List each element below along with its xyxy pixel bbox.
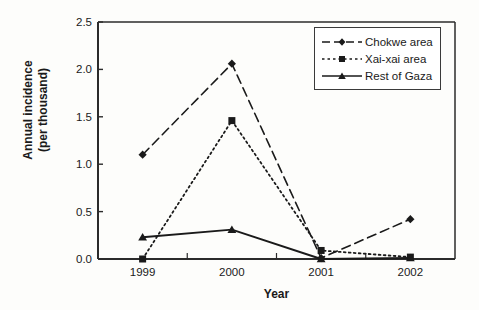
legend-key-dotted-square-icon [321, 52, 363, 66]
series-line-1 [143, 121, 411, 259]
x-axis-title: Year [98, 287, 455, 301]
legend-label-chokwe-area: Chokwe area [363, 36, 433, 48]
x-axis-tick-label: 2002 [398, 266, 424, 278]
data-point-marker-square [318, 247, 325, 254]
data-point-marker-square [139, 256, 146, 263]
data-point-marker-diamond [406, 215, 414, 223]
legend-item-chokwe-area: Chokwe area [321, 33, 433, 50]
x-axis-tick-label: 2000 [219, 266, 245, 278]
legend-key-dashed-diamond-icon [321, 35, 363, 49]
x-axis-tick-label: 2001 [308, 266, 334, 278]
legend-label-xai-xai-area: Xai-xai area [363, 53, 426, 65]
data-point-marker-square [228, 117, 235, 124]
series-line-0 [143, 64, 411, 258]
x-axis-tick-label: 1999 [130, 266, 156, 278]
legend-item-rest-of-gaza: Rest of Gaza [321, 67, 433, 84]
legend-item-xai-xai-area: Xai-xai area [321, 50, 433, 67]
legend-label-rest-of-gaza: Rest of Gaza [363, 70, 432, 82]
chart-figure: Annual incidence (per thousand) 0.00.51.… [0, 0, 479, 310]
legend-key-solid-triangle-icon [321, 69, 363, 83]
chart-legend: Chokwe area Xai-xai area Rest of Gaza [314, 27, 441, 90]
data-point-marker-diamond [228, 60, 236, 68]
